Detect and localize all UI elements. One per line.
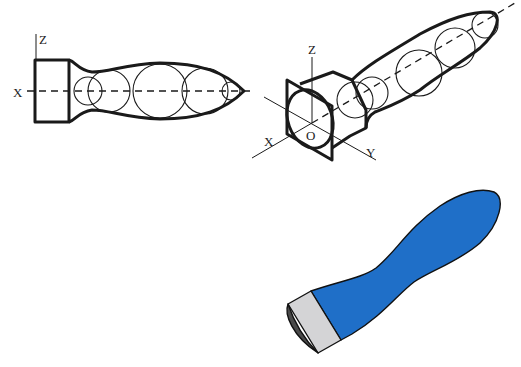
y-axis xyxy=(264,97,376,160)
handle-outline xyxy=(69,60,244,122)
section-circle xyxy=(472,12,498,38)
diagram-canvas: Z X Z X Y O xyxy=(0,0,521,367)
isometric-view: Z X Y O xyxy=(252,3,515,160)
x-axis-label: X xyxy=(13,85,23,100)
handle-outline xyxy=(352,12,497,128)
handle-grip xyxy=(311,190,500,340)
z-axis-label: Z xyxy=(39,32,47,47)
x-axis xyxy=(252,123,312,158)
section-circle xyxy=(435,28,475,68)
y-axis-label: Y xyxy=(366,145,376,160)
rendered-view xyxy=(287,190,500,353)
x-axis-label: X xyxy=(264,134,274,149)
z-axis-label: Z xyxy=(308,42,316,57)
handle-centerline xyxy=(312,3,515,123)
origin-label: O xyxy=(306,128,315,143)
side-view: Z X xyxy=(13,32,250,122)
